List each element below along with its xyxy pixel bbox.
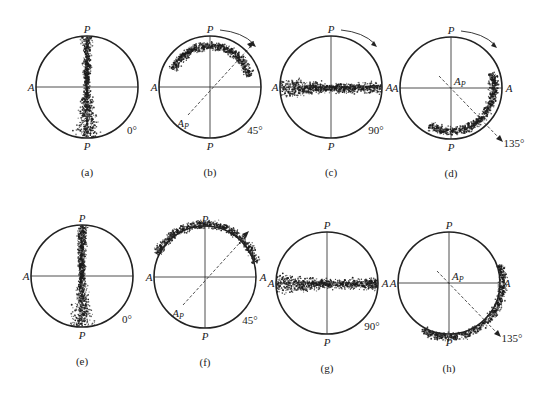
panel-caption: (d): [445, 167, 458, 180]
polarizer-label-bottom: P: [206, 140, 214, 152]
ap-label: AP: [453, 75, 466, 89]
polarizer-label-top: P: [201, 213, 209, 225]
panel-d: PPAAAP135°(d): [391, 24, 525, 180]
polarizer-label-top: P: [327, 23, 335, 35]
rotation-angle-label: 0°: [122, 313, 132, 325]
ap-direction-line: [188, 47, 250, 115]
polarizer-label-top: P: [445, 219, 453, 231]
panel-a: PPA0°(a): [27, 23, 138, 179]
ap-direction-line: [183, 237, 245, 305]
ap-label: AP: [171, 307, 184, 321]
analyzer-label-right: A: [505, 82, 513, 94]
panel-f: PPAAAP45°(f): [145, 213, 267, 369]
rotation-angle-label: 45°: [247, 124, 262, 136]
panel-c: PPAA90°(c): [271, 23, 393, 179]
polarizer-label-top: P: [78, 212, 86, 224]
polarizer-label-bottom: P: [78, 329, 86, 341]
panel-g: PPAA90°(g): [267, 219, 389, 375]
rotation-angle-label: 135°: [504, 137, 525, 149]
rotation-arrow: [341, 30, 375, 44]
panel-caption: (a): [81, 166, 94, 179]
analyzer-label-left: A: [389, 277, 397, 289]
polarizer-label-top: P: [323, 219, 331, 231]
analyzer-label-left: A: [145, 271, 153, 283]
analyzer-label-left: A: [150, 81, 158, 93]
rotation-arrow-head-icon: [371, 41, 377, 47]
rotation-angle-label: 45°: [242, 314, 257, 326]
rotation-arrow: [461, 31, 495, 45]
diagram-canvas: PPA0°(a)PPAAP45°(b)PPAA90°(c)PPAAAP135°(…: [0, 0, 549, 399]
panel-caption: (f): [200, 356, 211, 369]
panel-h: PPAAAP135°(h): [389, 219, 523, 375]
polarizer-label-top: P: [83, 23, 91, 35]
analyzer-label-right: A: [503, 277, 511, 289]
ap-label: AP: [451, 270, 464, 284]
arrow-head-icon: [496, 135, 503, 142]
panel-caption: (e): [76, 355, 89, 368]
analyzer-label-left: A: [271, 81, 279, 93]
arrow-head-icon: [494, 330, 501, 337]
analyzer-label-left: A: [22, 270, 30, 282]
analyzer-label-right: A: [381, 277, 389, 289]
analyzer-label-right: A: [259, 271, 267, 283]
rotation-angle-label: 135°: [502, 332, 523, 344]
rotation-angle-label: 0°: [127, 124, 137, 136]
panel-e: PPA0°(e): [22, 212, 133, 368]
panel-caption: (g): [321, 362, 334, 375]
polarizer-label-top: P: [206, 23, 214, 35]
panel-b: PPAAP45°(b): [150, 23, 263, 179]
polarizer-label-bottom: P: [323, 336, 331, 348]
panel-caption: (h): [443, 362, 456, 375]
rotation-arrow-head-icon: [491, 42, 497, 48]
polarizer-label-bottom: P: [447, 141, 455, 153]
ap-label: AP: [176, 117, 189, 131]
rotation-angle-label: 90°: [368, 124, 383, 136]
panel-caption: (c): [325, 166, 338, 179]
polarizer-label-top: P: [447, 24, 455, 36]
rotation-angle-label: 90°: [364, 320, 379, 332]
polarizer-label-bottom: P: [83, 140, 91, 152]
panel-caption: (b): [204, 166, 217, 179]
analyzer-label-left: A: [267, 277, 275, 289]
polarizer-label-bottom: P: [327, 140, 335, 152]
polarizer-label-bottom: P: [445, 336, 453, 348]
analyzer-label-left: A: [27, 81, 35, 93]
rotation-arrow: [220, 30, 254, 44]
analyzer-label-left: A: [391, 82, 399, 94]
polarizer-label-bottom: P: [201, 330, 209, 342]
